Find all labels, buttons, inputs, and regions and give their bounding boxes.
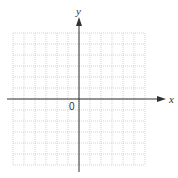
y-axis-arrow-icon xyxy=(76,17,82,26)
y-axis-label: y xyxy=(75,5,81,17)
coordinate-plane: x y 0 xyxy=(0,0,178,178)
origin-label: 0 xyxy=(69,101,75,112)
x-axis-arrow-icon xyxy=(157,96,166,102)
x-axis-label: x xyxy=(168,93,174,105)
